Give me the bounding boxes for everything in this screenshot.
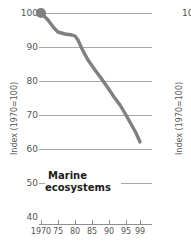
xtick-label-1970: 1970 xyxy=(29,228,53,236)
series-label-line2: ecosystems xyxy=(45,182,111,195)
xtick-label-85: 85 xyxy=(85,228,99,236)
series-start-marker xyxy=(36,8,46,18)
xtick-label-75: 75 xyxy=(51,228,65,236)
neighbor-ytick-label: 10 xyxy=(182,9,191,18)
series-line xyxy=(41,13,140,142)
series-marine-ecosystems xyxy=(0,0,191,245)
xtick-label-99: 99 xyxy=(133,228,147,236)
chart-figure: 100 90 80 70 60 50 40 Index (1970=100) M… xyxy=(0,0,191,245)
xtick-mark-85 xyxy=(92,220,93,224)
xtick-mark-1970 xyxy=(41,220,42,224)
x-axis-line xyxy=(39,224,152,225)
neighbor-y-axis-title: Index (1970=100) xyxy=(176,82,184,155)
xtick-mark-75 xyxy=(58,220,59,224)
xtick-label-90: 90 xyxy=(102,228,116,236)
xtick-mark-95 xyxy=(126,220,127,224)
series-label-line1: Marine xyxy=(48,170,87,183)
xtick-mark-99 xyxy=(140,220,141,224)
xtick-mark-80 xyxy=(75,220,76,224)
xtick-label-80: 80 xyxy=(68,228,82,236)
xtick-label-95: 95 xyxy=(119,228,133,236)
xtick-mark-90 xyxy=(109,220,110,224)
